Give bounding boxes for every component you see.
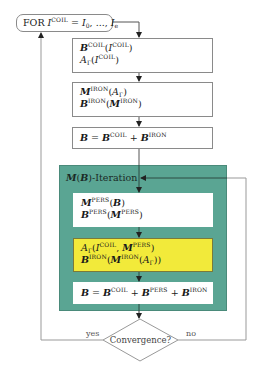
arg-sup: COIL	[100, 241, 117, 248]
total-field-line: B = BCOIL + BPERS + BIRON	[81, 287, 206, 299]
arg: M	[111, 209, 122, 220]
pers-field-line: BPERS(MPERS)	[81, 209, 206, 221]
inner-sup: IRON	[121, 253, 139, 260]
sym: M	[81, 197, 92, 208]
sym: A	[81, 242, 88, 253]
convergence-label: Convergence?	[103, 334, 178, 346]
term-sup: COIL	[111, 286, 128, 293]
term-sup: IRON	[190, 286, 208, 293]
arg-sup: PERS	[133, 241, 151, 248]
term: B	[142, 287, 150, 298]
term: B	[182, 287, 190, 298]
title-sym: M	[66, 172, 77, 183]
term-sup: PERS	[150, 286, 168, 293]
innermost-sub: Γ	[150, 259, 154, 266]
eq: =	[89, 287, 103, 298]
sup: PERS	[89, 208, 107, 215]
iron-field-update-line: BIRON(MIRON(AΓ))	[81, 254, 206, 266]
iteration-title: M(B)-Iteration	[66, 172, 137, 184]
lhs: B	[81, 287, 89, 298]
sup: PERS	[92, 196, 110, 203]
iteration-connectors	[0, 0, 258, 377]
sup: IRON	[89, 253, 107, 260]
arg: B	[113, 197, 121, 208]
innermost: A	[143, 254, 150, 265]
iron-update-box: AΓ(ICOIL, MPERS) BIRON(MIRON(AΓ))	[73, 238, 213, 272]
plus: +	[128, 287, 142, 298]
pers-field-box: MPERS(B) BPERS(MPERS)	[73, 193, 213, 227]
title-arg: B	[80, 172, 88, 183]
arg: M	[122, 242, 133, 253]
title-suffix: -Iteration	[92, 172, 137, 183]
inner: M	[111, 254, 122, 265]
arg-sup: PERS	[121, 208, 139, 215]
sym: B	[81, 209, 89, 220]
total-field-box: B = BCOIL + BPERS + BIRON	[73, 282, 213, 304]
sym: B	[81, 254, 89, 265]
plus: +	[168, 287, 182, 298]
term: B	[103, 287, 111, 298]
